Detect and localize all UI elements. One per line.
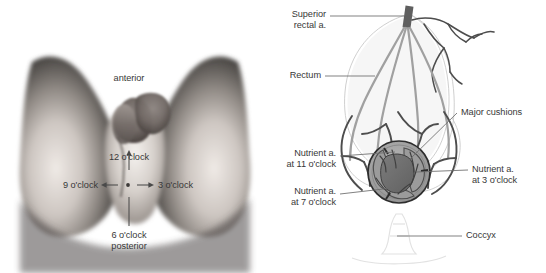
label-nutrient-7-line2: at 7 o'clock [272,197,336,208]
entry-3-oclock [421,170,428,171]
label-nutrient-11-line1: Nutrient a. [272,148,336,159]
label-rectum: Rectum [262,70,321,81]
label-nutrient-7-line1: Nutrient a. [272,186,336,197]
label-coccyx: Coccyx [466,230,526,241]
right-panel-diagram-layer [0,0,546,273]
label-major-cushions: Major cushions [461,107,546,118]
anatomy-figure: anterior 12 o'clock 9 o'clock 3 o'clock … [0,0,546,273]
coccyx-outline [352,214,446,264]
coccyx-body [382,214,416,254]
label-superior-rectal-line1: Superior [268,9,326,20]
pelvic-floor-line [352,256,446,264]
label-nutrient-3-line2: at 3 o'clock [472,175,546,186]
label-nutrient-11-line2: at 11 o'clock [272,159,336,170]
label-nutrient-3-line1: Nutrient a. [472,164,546,175]
label-superior-rectal-line2: rectal a. [268,20,326,31]
